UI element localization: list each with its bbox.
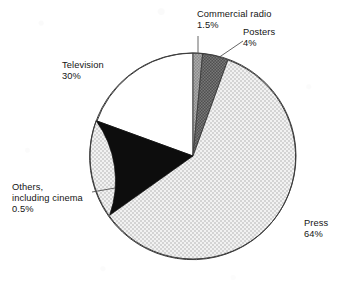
label-press-percent: 64% <box>304 229 328 240</box>
label-posters-percent: 4% <box>243 38 275 49</box>
label-commercial-radio-name: Commercial radio <box>197 9 271 20</box>
label-posters-name: Posters <box>243 27 275 38</box>
label-others-percent: 0.5% <box>12 204 83 215</box>
label-press-name: Press <box>304 218 328 229</box>
label-press: Press 64% <box>304 218 328 240</box>
leader-line-posters <box>218 41 243 58</box>
label-television-name: Television <box>62 60 104 71</box>
label-others-line2: including cinema <box>12 193 83 204</box>
label-others: Others, including cinema 0.5% <box>12 182 83 216</box>
pie-chart-canvas <box>0 0 343 289</box>
label-others-line1: Others, <box>12 182 83 193</box>
label-television: Television 30% <box>62 60 104 82</box>
label-television-percent: 30% <box>62 71 104 82</box>
pie-chart: Commercial radio 1.5% Posters 4% Televis… <box>0 0 343 289</box>
label-posters: Posters 4% <box>243 27 275 49</box>
